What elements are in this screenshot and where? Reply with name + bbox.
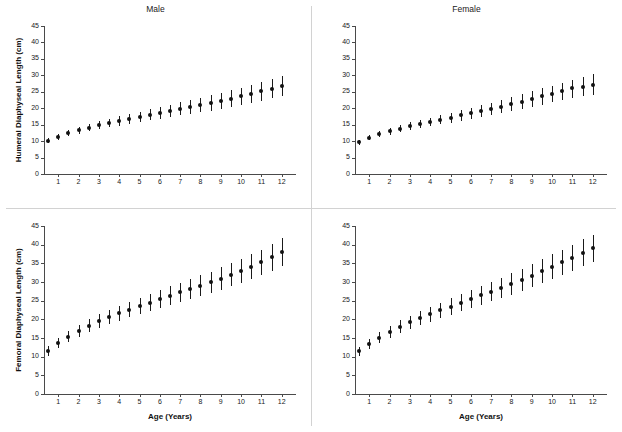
data-point (77, 128, 81, 132)
x-tick-label: 3 (91, 178, 107, 185)
x-tick-label: 5 (132, 398, 148, 405)
x-tick-mark (511, 394, 512, 397)
x-tick-label: 8 (192, 398, 208, 405)
data-point (530, 274, 534, 278)
data-point (229, 273, 233, 277)
panel-top-left: Male051015202530354045123456789101112Hum… (0, 4, 311, 208)
data-point (388, 330, 392, 334)
y-tick-label: 40 (329, 240, 350, 247)
x-tick-mark (261, 174, 262, 177)
data-point (77, 329, 81, 333)
data-point (148, 301, 152, 305)
y-tick-mark (41, 42, 44, 43)
y-tick-mark (352, 338, 355, 339)
y-axis-label: Humeral Diaphyseal Length (cm) (14, 38, 23, 162)
x-tick-label: 4 (111, 178, 127, 185)
y-tick-label: 10 (329, 137, 350, 144)
y-tick-label: 0 (18, 170, 39, 177)
panel-bottom-right: 051015202530354045123456789101112Age (Ye… (311, 212, 622, 432)
x-tick-mark (99, 174, 100, 177)
y-tick-mark (41, 141, 44, 142)
x-tick-mark (390, 394, 391, 397)
x-tick-mark (552, 394, 553, 397)
x-tick-label: 6 (463, 398, 479, 405)
data-point (449, 116, 453, 120)
x-tick-label: 2 (382, 398, 398, 405)
x-tick-label: 3 (91, 398, 107, 405)
panel-bottom-left: 051015202530354045123456789101112Femoral… (0, 212, 311, 432)
data-point (499, 105, 503, 109)
data-point (449, 305, 453, 309)
x-axis-line (355, 174, 607, 175)
x-tick-label: 10 (233, 398, 249, 405)
x-tick-label: 1 (361, 178, 377, 185)
x-tick-mark (410, 174, 411, 177)
x-tick-mark (221, 394, 222, 397)
y-tick-mark (41, 226, 44, 227)
data-point (280, 250, 284, 254)
data-point (398, 325, 402, 329)
y-axis-label: Femoral Diaphyseal Length (cm) (14, 248, 23, 372)
x-tick-mark (491, 394, 492, 397)
y-tick-label: 35 (329, 259, 350, 266)
x-tick-mark (390, 174, 391, 177)
y-tick-mark (352, 92, 355, 93)
y-tick-label: 15 (329, 334, 350, 341)
data-point (107, 121, 111, 125)
x-tick-mark (282, 394, 283, 397)
x-tick-mark (160, 174, 161, 177)
x-axis-line (44, 174, 296, 175)
data-point (530, 97, 534, 101)
x-tick-mark (410, 394, 411, 397)
panel-divider-horizontal (6, 208, 616, 209)
data-point (398, 127, 402, 131)
x-tick-label: 11 (253, 178, 269, 185)
y-tick-mark (41, 319, 44, 320)
x-tick-label: 1 (50, 398, 66, 405)
x-tick-label: 3 (402, 398, 418, 405)
x-tick-mark (99, 394, 100, 397)
data-point (520, 100, 524, 104)
x-tick-label: 11 (564, 178, 580, 185)
data-point (158, 111, 162, 115)
y-tick-mark (41, 75, 44, 76)
x-tick-mark (593, 174, 594, 177)
x-tick-mark (572, 174, 573, 177)
x-tick-mark (471, 174, 472, 177)
x-tick-mark (200, 394, 201, 397)
x-tick-label: 9 (213, 398, 229, 405)
x-tick-mark (58, 394, 59, 397)
y-tick-label: 30 (329, 71, 350, 78)
x-tick-mark (200, 174, 201, 177)
x-tick-mark (511, 174, 512, 177)
x-tick-mark (180, 394, 181, 397)
data-point (489, 107, 493, 111)
data-point (280, 84, 284, 88)
plot-area (355, 26, 607, 174)
y-tick-mark (41, 301, 44, 302)
y-tick-mark (352, 282, 355, 283)
x-tick-mark (140, 174, 141, 177)
y-tick-label: 20 (329, 104, 350, 111)
x-tick-mark (79, 394, 80, 397)
y-tick-mark (352, 357, 355, 358)
y-tick-mark (41, 263, 44, 264)
x-tick-label: 2 (71, 398, 87, 405)
x-tick-label: 5 (443, 398, 459, 405)
y-tick-mark (352, 375, 355, 376)
y-tick-mark (352, 141, 355, 142)
x-tick-mark (451, 174, 452, 177)
data-point (66, 335, 70, 339)
panel-title: Female (311, 4, 622, 14)
y-tick-mark (41, 357, 44, 358)
y-tick-label: 45 (329, 222, 350, 229)
x-tick-label: 9 (524, 398, 540, 405)
x-tick-label: 11 (253, 398, 269, 405)
y-tick-label: 15 (329, 120, 350, 127)
x-tick-mark (282, 174, 283, 177)
x-tick-label: 5 (443, 178, 459, 185)
x-tick-mark (491, 174, 492, 177)
y-tick-mark (41, 92, 44, 93)
data-point (581, 85, 585, 89)
figure-canvas: Male051015202530354045123456789101112Hum… (0, 0, 622, 432)
